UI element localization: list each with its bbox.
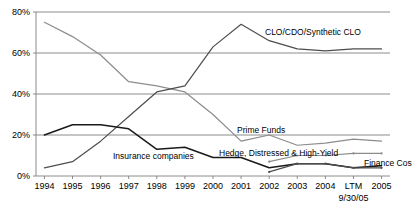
y-tick-label: 20%	[12, 130, 30, 140]
x-tick-label: 1994	[34, 181, 54, 191]
y-tick-label: 80%	[12, 7, 30, 17]
data-point-marker	[352, 152, 354, 154]
x-tick-label: 1995	[63, 181, 83, 191]
x-tick-label: 1996	[91, 181, 111, 191]
x-tick-label: 1997	[119, 181, 139, 191]
insurance-label: Insurance companies	[113, 151, 194, 161]
hedge-label: Hedge, Distressed & High-Yield	[219, 148, 338, 158]
line-chart: 0%20%40%60%80% 1994199519961997199819992…	[0, 0, 416, 216]
chart-container: 0%20%40%60%80% 1994199519961997199819992…	[0, 0, 416, 216]
x-tick-label: LTM	[345, 181, 362, 191]
data-point-marker	[268, 171, 270, 173]
data-point-marker	[296, 163, 298, 165]
x-tick-label: 2003	[287, 181, 307, 191]
y-tick-label: 60%	[12, 48, 30, 58]
x-tick-label: 2001	[231, 181, 251, 191]
prime-funds-label: Prime Funds	[237, 125, 285, 135]
data-point-marker	[268, 161, 270, 163]
y-tick-label: 40%	[12, 89, 30, 99]
data-point-marker	[324, 163, 326, 165]
data-point-marker	[352, 167, 354, 169]
finance-cos-label: Finance Cos	[364, 158, 412, 168]
x-tick-label: 2004	[315, 181, 335, 191]
y-tick-label: 0%	[17, 171, 30, 181]
x-tick-label: 2000	[203, 181, 223, 191]
x-tick-sublabel: 9/30/05	[338, 193, 368, 203]
x-tick-label: 2002	[259, 181, 279, 191]
clo-label: CLO/CDO/Synthetic CLO	[265, 27, 361, 37]
x-tick-label: 2005	[372, 181, 392, 191]
data-point-marker	[380, 152, 382, 154]
x-tick-label: 1999	[175, 181, 195, 191]
x-tick-label: 1998	[147, 181, 167, 191]
